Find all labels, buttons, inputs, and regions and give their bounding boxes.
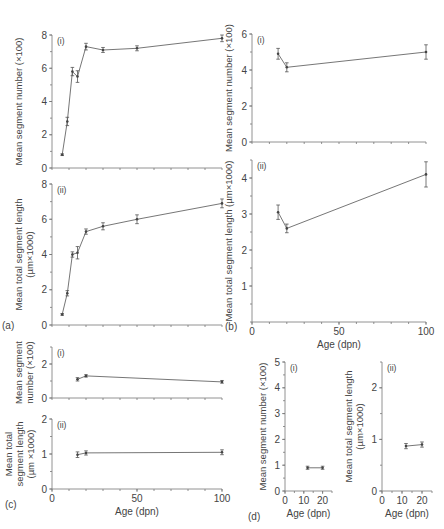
y-tick-label: 3 [241, 209, 247, 220]
data-point [76, 453, 79, 456]
y-tick-label: 0 [41, 163, 47, 174]
data-point [102, 225, 105, 228]
y-tick-label: 0 [241, 137, 247, 148]
subpanel-label: (ii) [57, 420, 67, 430]
y-tick-label: 4 [41, 249, 47, 260]
panel-label: (a) [2, 320, 14, 331]
data-point [425, 173, 428, 176]
figure-canvas: 02468(i)Mean segment number (×100)02468(… [0, 0, 444, 529]
y-axis-label: (µm×1000) [354, 403, 365, 449]
y-axis-label: number (×100) [24, 341, 35, 404]
data-point [71, 253, 74, 256]
data-point [286, 227, 289, 230]
data-point [85, 230, 88, 233]
y-axis-label: Mean total segment length [13, 199, 24, 311]
y-tick-label: 0 [41, 320, 47, 331]
x-axis-label: Age (dpn) [115, 506, 159, 517]
chart-d-i: 01234501020Age (dpn)(i)Mean segment numb… [257, 357, 332, 520]
y-tick-label: 2 [41, 284, 47, 295]
figure: 02468(i)Mean segment number (×100)02468(… [0, 0, 444, 529]
y-axis-label: Mean segment number (×100) [257, 362, 268, 490]
y-tick-label: 1 [241, 281, 247, 292]
data-point [85, 452, 88, 455]
y-tick-label: 2 [41, 129, 47, 140]
data-series-line [278, 174, 426, 228]
y-axis-label: Mean total segment length [343, 371, 354, 483]
y-tick-label: 3 [274, 408, 280, 419]
data-point [136, 218, 139, 221]
data-point [61, 153, 64, 156]
data-point [71, 70, 74, 73]
data-point [66, 292, 69, 295]
y-tick-label: 2 [274, 434, 280, 445]
y-axis-label: Mean segment number (×100) [13, 37, 24, 165]
data-series-line [406, 445, 422, 447]
chart-a-ii: 02468(ii)Mean total segment length(µm×10… [13, 179, 224, 331]
subpanel-label: (ii) [387, 363, 397, 373]
x-axis-label: Age (dpn) [385, 508, 429, 519]
data-point [102, 49, 105, 52]
y-tick-label: 4 [241, 65, 247, 76]
x-tick-label: 20 [317, 495, 329, 506]
data-point [306, 466, 309, 469]
y-tick-label: 5 [274, 357, 280, 368]
chart-c-ii: 012050100Age (dpn)(ii)Mean totalsegment … [3, 414, 231, 518]
data-point [321, 466, 324, 469]
data-series-line [278, 52, 426, 67]
panel-label: (c) [5, 499, 17, 510]
data-point [286, 66, 289, 69]
y-tick-label: 6 [41, 214, 47, 225]
y-axis-label: Mean total segment length (µm×1000) [223, 161, 234, 322]
y-tick-label: 2 [41, 414, 47, 425]
x-tick-label: 10 [396, 495, 408, 506]
x-tick-label: 0 [49, 493, 55, 504]
panel-label: (d) [248, 511, 260, 522]
y-tick-label: 1 [274, 460, 280, 471]
data-point [76, 378, 79, 381]
y-tick-label: 0 [274, 486, 280, 497]
y-tick-label: 4 [41, 96, 47, 107]
subpanel-label: (i) [57, 348, 65, 358]
subpanel-label: (ii) [257, 161, 267, 171]
data-point [76, 75, 79, 78]
data-series-line [62, 203, 222, 314]
chart-d-ii: 01201020Age (dpn)(ii)Mean total segment … [343, 362, 432, 519]
y-tick-label: 1 [371, 434, 377, 445]
y-tick-label: 4 [241, 173, 247, 184]
y-tick-label: 6 [241, 29, 247, 40]
panel-label: (b) [225, 321, 237, 332]
data-point [76, 251, 79, 254]
y-axis-label: Mean segment number (×100) [223, 24, 234, 152]
data-point [85, 375, 88, 378]
x-tick-label: 100 [214, 493, 231, 504]
y-axis-label: Mean total [3, 432, 14, 476]
x-axis-label: Age (dpn) [317, 339, 361, 350]
data-point [277, 211, 280, 214]
y-tick-label: 8 [41, 30, 47, 41]
data-point [66, 120, 69, 123]
subpanel-label: (i) [57, 36, 65, 46]
y-tick-label: 0 [41, 484, 47, 495]
y-tick-label: 1 [41, 449, 47, 460]
y-axis-label: (µm×1000) [24, 231, 35, 277]
y-axis-label: Mean segment [13, 341, 24, 404]
subpanel-label: (ii) [57, 185, 67, 195]
y-axis-label: (µm ×1000) [25, 429, 36, 478]
y-tick-label: 2 [241, 101, 247, 112]
y-axis-label: segment length [14, 422, 25, 487]
x-tick-label: 0 [249, 326, 255, 337]
y-tick-label: 2 [371, 382, 377, 393]
y-tick-label: 0 [371, 486, 377, 497]
data-point [421, 443, 424, 446]
y-tick-label: 2 [241, 245, 247, 256]
y-tick-label: 0 [41, 393, 47, 404]
x-axis-label: Age (dpn) [287, 508, 331, 519]
data-point [425, 51, 428, 54]
y-tick-label: 8 [41, 179, 47, 190]
y-tick-label: 4 [274, 382, 280, 393]
data-point [221, 381, 224, 384]
x-tick-label: 10 [298, 495, 310, 506]
subpanel-label: (i) [257, 35, 265, 45]
data-point [136, 47, 139, 50]
data-point [405, 445, 408, 448]
